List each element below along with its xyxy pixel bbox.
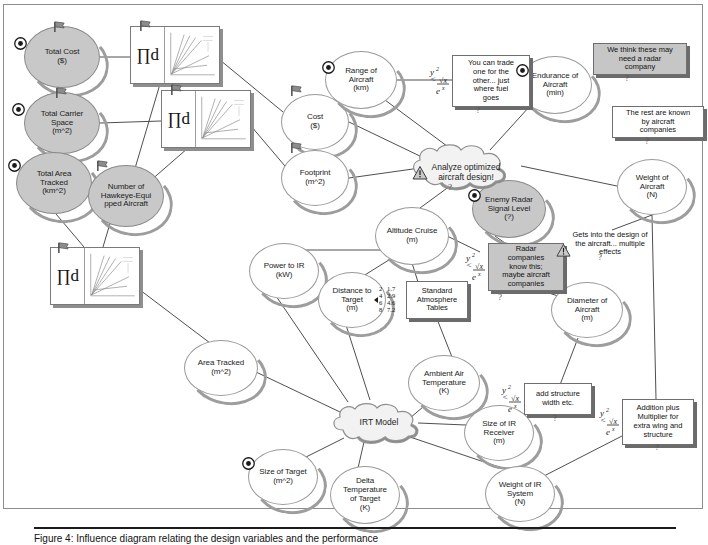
- svg-text:4: 4: [379, 292, 383, 299]
- note-gets-into-design[interactable]: Gets into the design ofthe aircraft... m…: [558, 228, 662, 260]
- graph-icon-symbol: ∏d: [131, 27, 165, 83]
- node-label: Distance toTarget(m): [328, 287, 377, 314]
- node-label: Size of IRReceiver(m): [477, 420, 521, 447]
- note-rest-known[interactable]: The rest are knownby aircraftcompanies: [612, 106, 704, 138]
- question-mark-glyph: ?: [645, 136, 649, 146]
- equation-icon: y 2 < √x e x: [501, 384, 527, 414]
- node-label: Number ofHawkeye-Equipped Aircraft: [96, 183, 156, 210]
- svg-text:x: x: [441, 85, 445, 91]
- graph-icon-plot: [165, 27, 219, 83]
- question-mark-glyph: ?: [598, 252, 602, 262]
- bullseye-icon: [8, 158, 21, 171]
- svg-text:<: <: [600, 415, 606, 425]
- svg-text:√x: √x: [439, 76, 447, 85]
- note-text: add structurewidth etc.: [536, 390, 580, 408]
- svg-text:<: <: [466, 260, 472, 270]
- node-label: Area Tracked(m^2): [193, 359, 249, 377]
- note-text: We think these mayneed a radarcompany: [607, 46, 673, 73]
- node-label: Weight ofAircraft(N): [631, 174, 674, 201]
- note-add-structure-width[interactable]: y 2 < √x e x add structurewidth etc.: [524, 383, 592, 415]
- flag-icon: [96, 158, 109, 171]
- flag-icon: [139, 18, 152, 31]
- note-text: Addition plusMultiplier forextra wing an…: [634, 404, 683, 439]
- note-text: You can tradeone for theother... justwhe…: [468, 59, 514, 103]
- graph-icon-2[interactable]: ∏d: [161, 90, 251, 148]
- node-size-of-target[interactable]: Size of Target(m^2): [248, 449, 318, 505]
- flag-icon: [55, 85, 68, 98]
- graph-icon-1[interactable]: ∏d: [130, 26, 220, 84]
- svg-text:x: x: [611, 426, 615, 432]
- svg-text:4.6: 4.6: [387, 299, 396, 306]
- note-standard-atmosphere-tables[interactable]: 2 1.7 4 2.9 6 4.6 8 7.2 StandardAtmosphe…: [406, 281, 468, 319]
- flag-icon: [57, 240, 70, 253]
- svg-text:e: e: [508, 404, 512, 414]
- node-number-hawkeye[interactable]: Number ofHawkeye-Equipped Aircraft: [88, 165, 164, 227]
- node-weight-of-ir-system[interactable]: Weight of IRSystem(N): [485, 466, 555, 522]
- svg-text:e: e: [472, 272, 476, 282]
- note-radar-companies-know[interactable]: y 2 < √x e x Radarcompaniesknow this;may…: [488, 243, 564, 291]
- svg-text:8: 8: [379, 306, 382, 313]
- svg-text:x: x: [477, 271, 481, 277]
- node-label: Power to IR(kW): [259, 262, 310, 280]
- svg-text:2: 2: [379, 285, 382, 292]
- node-area-tracked[interactable]: Area Tracked(m^2): [184, 340, 258, 396]
- node-label: Endurance ofAircraft(min): [527, 72, 583, 99]
- table-icon: 2 1.7 4 2.9 6 4.6 8 7.2: [373, 284, 409, 316]
- warning-icon: [412, 165, 428, 181]
- node-label: Size of Target(m^2): [254, 468, 311, 486]
- svg-text:6: 6: [379, 299, 383, 306]
- cloud-irt-model[interactable]: IRT Model: [327, 400, 431, 446]
- svg-text:2: 2: [606, 407, 609, 413]
- flag-icon: [170, 82, 183, 95]
- figure-caption: Figure 4: Influence diagram relating the…: [34, 533, 684, 545]
- node-label: DeltaTemperatureof Target(K): [338, 477, 392, 513]
- node-label: Weight of IRSystem(N): [494, 481, 547, 508]
- diagram-canvas: ∏d ∏d: [0, 0, 708, 545]
- question-mark-glyph: ?: [476, 105, 480, 115]
- svg-text:<: <: [430, 74, 436, 84]
- caption-rule: [34, 527, 676, 529]
- node-total-carrier-space[interactable]: Total CarrierSpace(m^2): [24, 92, 100, 154]
- bullseye-icon: [12, 102, 25, 115]
- node-power-to-ir[interactable]: Power to IR(kW): [249, 243, 319, 299]
- node-label: Altitude Cruise(m): [382, 227, 443, 245]
- svg-text:√x: √x: [609, 417, 617, 426]
- svg-text:2.9: 2.9: [387, 292, 395, 299]
- note-text: StandardAtmosphereTables: [417, 287, 457, 314]
- warning-icon: [556, 243, 571, 258]
- bullseye-icon: [516, 63, 529, 76]
- flag-icon: [290, 140, 303, 153]
- bullseye-icon: [468, 188, 481, 201]
- node-weight-of-aircraft[interactable]: Weight ofAircraft(N): [617, 159, 687, 215]
- node-label: Enemy RadarSignal Level(?): [480, 196, 538, 223]
- graph-icon-plot: [85, 248, 139, 304]
- bullseye-icon: [242, 456, 255, 469]
- flag-icon: [53, 19, 66, 32]
- question-mark-glyph: ?: [553, 413, 557, 423]
- node-label: Total CarrierSpace(m^2): [36, 110, 88, 137]
- node-footprint[interactable]: Footprint(m^2): [281, 150, 349, 206]
- graph-icon-3[interactable]: ∏d: [50, 247, 140, 305]
- node-altitude-cruise[interactable]: Altitude Cruise(m): [375, 207, 449, 265]
- note-addition-plus-multiplier[interactable]: y 2 < √x e x Addition plusMultiplier for…: [622, 399, 694, 445]
- svg-text:2: 2: [508, 384, 511, 390]
- question-mark-glyph: ?: [655, 442, 659, 452]
- flag-icon: [290, 83, 303, 96]
- note-radar-company[interactable]: We think these mayneed a radarcompany: [593, 43, 687, 75]
- node-total-cost[interactable]: Total Cost($): [24, 26, 100, 88]
- node-label: Footprint(m^2): [295, 169, 336, 187]
- svg-text:2: 2: [436, 66, 439, 72]
- node-delta-temperature-of-target[interactable]: DeltaTemperatureof Target(K): [330, 466, 400, 524]
- svg-text:e: e: [606, 427, 610, 437]
- node-label: Diameter ofAircraft(m): [562, 297, 612, 324]
- svg-text:1.7: 1.7: [387, 285, 396, 292]
- node-range-of-aircraft[interactable]: Range ofAircraft(km): [325, 51, 397, 109]
- node-total-area-tracked[interactable]: Total AreaTracked(km^2): [16, 152, 92, 214]
- question-mark-glyph: ?: [498, 292, 502, 302]
- equation-icon: y 2 < √x e x: [599, 407, 625, 437]
- svg-text:<: <: [502, 392, 508, 402]
- node-label: Cost($): [302, 113, 328, 131]
- note-text: Radarcompaniesknow this;maybe aircraftco…: [502, 245, 550, 289]
- equation-icon: y 2 < √x e x: [429, 66, 455, 96]
- node-label: Total Cost($): [40, 48, 85, 66]
